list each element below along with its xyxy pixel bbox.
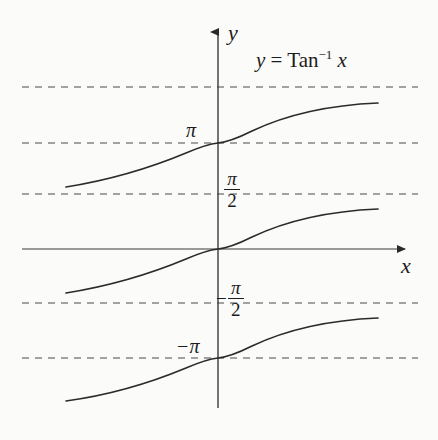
curve-branch-minus-pi	[66, 318, 378, 401]
title-exponent: −1	[318, 47, 332, 62]
tick-label-pi: π	[186, 120, 196, 140]
y-axis-label: y	[228, 22, 238, 44]
fraction-pi-over-two: π 2	[224, 169, 240, 210]
title-variable: x	[338, 48, 347, 72]
curve-branch-plus-pi	[66, 103, 378, 187]
x-axis-label: x	[401, 255, 411, 277]
tick-label-neg-pi: −π	[176, 336, 200, 356]
fraction-minus-sign: −	[216, 289, 227, 308]
equation-title: y = Tan−1 x	[256, 48, 347, 71]
title-function-name: Tan	[287, 48, 318, 72]
title-lhs: y	[256, 48, 265, 72]
plot-canvas	[0, 0, 438, 440]
fraction-numerator: π	[229, 278, 243, 298]
arctangent-figure: y x y = Tan−1 x π −π π 2 − π 2	[0, 0, 438, 440]
tick-label-pi-over-two: π 2	[224, 169, 240, 210]
curve-group	[66, 103, 378, 401]
title-equals: =	[271, 48, 283, 72]
tick-label-neg-pi-over-two: − π 2	[216, 278, 244, 319]
fraction-numerator: π	[225, 169, 239, 189]
fraction-denominator: 2	[225, 190, 239, 210]
fraction-neg-pi-over-two: π 2	[228, 278, 244, 319]
fraction-denominator: 2	[229, 299, 243, 319]
